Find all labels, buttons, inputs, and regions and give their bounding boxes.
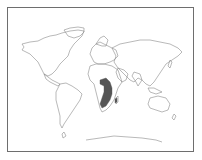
highlighted-range-africa: [100, 78, 112, 108]
highlighted-range-madagascar: [115, 98, 117, 103]
south-america-outline: [56, 83, 82, 128]
antarctica-outline: [86, 136, 162, 142]
greenland-outline: [64, 27, 84, 38]
central-america-outline: [44, 74, 60, 86]
europe-outline: [90, 42, 118, 64]
north-america-outline: [22, 30, 84, 76]
southern-islands-outline: [62, 132, 66, 138]
new-zealand-outline: [172, 114, 176, 120]
world-map: [0, 0, 202, 160]
australia-outline: [148, 96, 170, 112]
southeast-asia-islands-outline: [148, 88, 162, 94]
scandinavia-outline: [96, 36, 108, 46]
